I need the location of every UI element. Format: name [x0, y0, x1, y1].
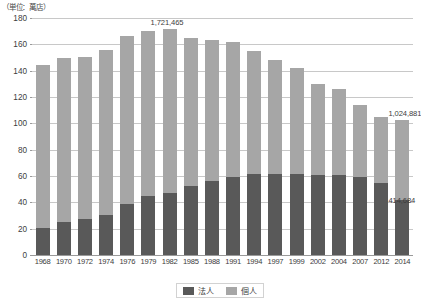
- bar-group: [353, 105, 367, 255]
- x-tick-label-1982: 1982: [162, 257, 178, 266]
- y-tick-label-20: 20: [18, 224, 27, 233]
- bar-group: [184, 38, 198, 255]
- bar-segment-corporate: [36, 228, 50, 255]
- y-tick-label-120: 120: [13, 93, 27, 102]
- bar-segment-individual: [353, 105, 367, 177]
- x-tick-label-1972: 1972: [77, 257, 93, 266]
- bar-segment-corporate: [163, 193, 177, 255]
- legend-swatch-icon: [183, 287, 194, 295]
- gridline-0: [32, 255, 413, 256]
- bar-segment-corporate: [374, 183, 388, 255]
- bar-group: [57, 58, 71, 255]
- bar-segment-individual: [268, 60, 282, 174]
- bar-group: [78, 57, 92, 255]
- y-tick-label-180: 180: [13, 14, 27, 23]
- bar-segment-corporate: [205, 181, 219, 255]
- bar-group: [395, 120, 409, 255]
- bar-segment-individual: [57, 58, 71, 223]
- y-axis: 020406080100120140160180: [0, 18, 30, 255]
- x-tick-label-2012: 2012: [373, 257, 389, 266]
- plot-area: 1,721,4651,024,881414,684: [32, 18, 413, 255]
- y-tick-label-160: 160: [13, 40, 27, 49]
- y-tick-label-80: 80: [18, 145, 27, 154]
- bar-group: [99, 50, 113, 255]
- bar-segment-individual: [99, 50, 113, 215]
- bar-group: [374, 117, 388, 255]
- bar-segment-corporate: [57, 222, 71, 255]
- bar-group: [163, 29, 177, 255]
- y-tick-label-0: 0: [22, 251, 27, 260]
- bar-segment-individual: [36, 65, 50, 228]
- x-tick-label-2004: 2004: [331, 257, 347, 266]
- x-tick-label-1988: 1988: [204, 257, 220, 266]
- bar-segment-corporate: [226, 177, 240, 255]
- bar-group: [332, 89, 346, 255]
- chart-legend: 法人個人: [176, 283, 264, 298]
- bar-segment-corporate: [184, 186, 198, 255]
- bar-segment-individual: [78, 57, 92, 219]
- bar-segment-individual: [374, 117, 388, 183]
- bar-segment-corporate: [99, 215, 113, 255]
- bar-group: [205, 40, 219, 255]
- bar-group: [226, 42, 240, 255]
- y-tick-label-60: 60: [18, 172, 27, 181]
- x-tick-label-2007: 2007: [352, 257, 368, 266]
- bar-segment-individual: [311, 84, 325, 175]
- bar-segment-individual: [184, 38, 198, 186]
- bar-segment-corporate: [247, 174, 261, 255]
- bar-segment-individual: [332, 89, 346, 175]
- bar-group: [268, 60, 282, 255]
- x-tick-label-1974: 1974: [98, 257, 114, 266]
- bar-segment-corporate: [268, 174, 282, 255]
- legend-label: 個人: [241, 285, 257, 296]
- bar-segment-individual: [120, 36, 134, 203]
- x-tick-label-1994: 1994: [246, 257, 262, 266]
- x-tick-label-1991: 1991: [225, 257, 241, 266]
- data-label-peak-total: 1,721,465: [151, 18, 184, 27]
- bar-segment-individual: [141, 31, 155, 196]
- x-tick-label-1968: 1968: [35, 257, 51, 266]
- bar-group: [36, 65, 50, 255]
- y-tick-label-40: 40: [18, 198, 27, 207]
- y-tick-label-100: 100: [13, 119, 27, 128]
- x-tick-label-1999: 1999: [289, 257, 305, 266]
- data-label-last-total: 1,024,881: [388, 109, 421, 118]
- bar-segment-individual: [290, 68, 304, 174]
- bar-segment-individual: [226, 42, 240, 176]
- legend-swatch-icon: [226, 287, 237, 295]
- data-label-last-corporate: 414,684: [388, 196, 415, 205]
- x-tick-label-1976: 1976: [119, 257, 135, 266]
- legend-label: 法人: [198, 285, 214, 296]
- bar-group: [311, 84, 325, 255]
- x-tick-label-1997: 1997: [268, 257, 284, 266]
- bar-segment-corporate: [353, 177, 367, 255]
- x-tick-label-1979: 1979: [141, 257, 157, 266]
- bar-group: [120, 36, 134, 255]
- y-tick-label-140: 140: [13, 66, 27, 75]
- bar-series-container: [32, 18, 413, 255]
- legend-item-corporate[interactable]: 法人: [183, 285, 214, 296]
- bar-segment-corporate: [141, 196, 155, 255]
- legend-item-individual[interactable]: 個人: [226, 285, 257, 296]
- x-tick-label-2002: 2002: [310, 257, 326, 266]
- unit-caption: （単位：萬店）: [2, 1, 50, 12]
- bar-group: [141, 31, 155, 255]
- x-axis: 1968197019721974197619791982198519881991…: [32, 257, 413, 271]
- x-tick-label-2014: 2014: [395, 257, 411, 266]
- bar-group: [290, 68, 304, 255]
- bar-segment-individual: [395, 120, 409, 200]
- bar-group: [247, 51, 261, 255]
- x-tick-label-1985: 1985: [183, 257, 199, 266]
- bar-segment-individual: [205, 40, 219, 181]
- bar-segment-corporate: [78, 219, 92, 255]
- bar-segment-corporate: [290, 174, 304, 255]
- bar-segment-corporate: [395, 200, 409, 255]
- bar-segment-corporate: [120, 204, 134, 255]
- bar-segment-individual: [247, 51, 261, 174]
- bar-segment-corporate: [311, 175, 325, 255]
- bar-segment-individual: [163, 29, 177, 194]
- bar-segment-corporate: [332, 175, 346, 255]
- x-tick-label-1970: 1970: [56, 257, 72, 266]
